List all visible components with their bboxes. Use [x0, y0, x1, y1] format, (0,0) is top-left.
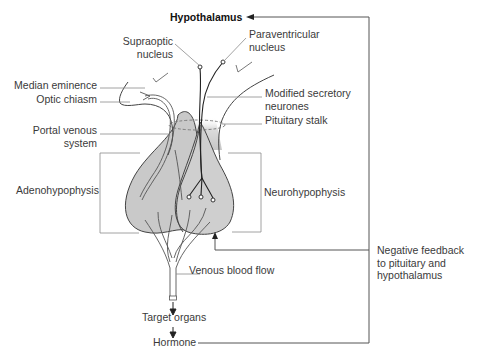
label-line: nucleus: [122, 48, 173, 61]
label-line: to pituitary and: [377, 257, 464, 270]
arrowhead-hypothalamus: [246, 14, 254, 20]
label-median-eminence: Median eminence: [0, 79, 97, 92]
label-line: nucleus: [249, 41, 320, 54]
label-venous-blood-flow: Venous blood flow: [189, 264, 274, 277]
label-paraventricular-nucleus: Paraventricular nucleus: [249, 28, 320, 53]
label-negative-feedback: Negative feedback to pituitary and hypot…: [377, 244, 464, 282]
label-line: Portal venous: [0, 124, 97, 137]
label-line: Modified secretory: [265, 87, 351, 100]
label-line: system: [0, 137, 97, 150]
label-line: neurones: [265, 100, 351, 113]
label-modified-secretory-neurones: Modified secretory neurones: [265, 87, 351, 112]
label-hormone: Hormone: [153, 336, 196, 349]
label-line: hypothalamus: [377, 269, 464, 282]
sketch-mark: [153, 73, 168, 82]
label-line: Supraoptic: [122, 35, 173, 48]
label-target-organs: Target organs: [142, 311, 206, 324]
label-hypothalamus: Hypothalamus: [170, 11, 242, 24]
pituitary-diagram: [0, 0, 477, 357]
label-portal-venous-system: Portal venous system: [0, 124, 97, 149]
label-optic-chiasm: Optic chiasm: [0, 93, 97, 106]
label-pituitary-stalk: Pituitary stalk: [265, 114, 327, 127]
sketch-mark: [236, 62, 252, 72]
label-line: Negative feedback: [377, 244, 464, 257]
label-line: Paraventricular: [249, 28, 320, 41]
label-adenohypophysis: Adenohypophysis: [16, 184, 99, 197]
label-neurohypophysis: Neurohypophysis: [264, 186, 345, 199]
label-supraoptic-nucleus: Supraoptic nucleus: [122, 35, 173, 60]
